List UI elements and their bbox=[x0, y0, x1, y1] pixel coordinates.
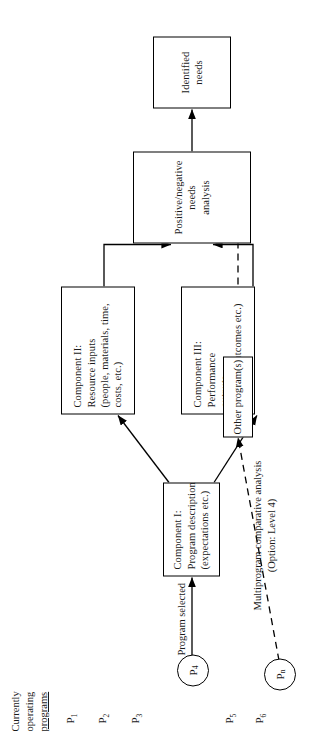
box-identified-needs[interactable]: Identified needs bbox=[153, 36, 231, 108]
component-ii-line-4: costs, etc.) bbox=[111, 293, 124, 407]
edge-label-multiprogram-analysis: Multiprogram comparative analysis (Optio… bbox=[251, 445, 278, 625]
program-node-p4[interactable]: P4 bbox=[177, 654, 209, 686]
p3-name: P bbox=[129, 717, 141, 723]
connector-lines bbox=[1, 0, 318, 737]
box-other-programs[interactable]: Other program(s) bbox=[223, 356, 253, 437]
p1-name: P bbox=[64, 717, 76, 723]
component-ii-line-1: Component II: bbox=[71, 293, 84, 407]
program-label-p5: P5 bbox=[223, 713, 235, 723]
component-ii-line-2: Resource inputs bbox=[85, 293, 98, 407]
needs-analysis-line-3: analysis bbox=[199, 180, 212, 215]
other-programs-line-1: Other program(s) bbox=[231, 359, 244, 434]
box-component-i[interactable]: Component I: Program description (expect… bbox=[163, 482, 220, 576]
component-i-line-3: (expectations etc.) bbox=[198, 489, 211, 569]
wire-component-ii-to-needs-analysis bbox=[104, 244, 171, 286]
needs-analysis-line-1: Positive/negative bbox=[172, 160, 185, 234]
program-label-p2: P2 bbox=[96, 713, 108, 723]
component-ii-line-3: (people, materials, time, bbox=[98, 293, 111, 407]
p6-sub: 6 bbox=[259, 713, 268, 717]
p4-sub: 4 bbox=[191, 665, 200, 669]
component-iii-line-1: Component III: bbox=[191, 293, 204, 407]
edge-label-program-selected: Program selected bbox=[175, 582, 189, 655]
figure-canvas: Currently operating programs P1 P2 P3 P4… bbox=[1, 0, 318, 737]
component-i-line-1: Component I: bbox=[171, 489, 184, 569]
multiprogram-line-1: Multiprogram comparative analysis bbox=[251, 445, 265, 625]
box-needs-analysis[interactable]: Positive/negative needs analysis bbox=[133, 151, 251, 243]
p5-name: P bbox=[223, 717, 235, 723]
p5-sub: 5 bbox=[229, 713, 238, 717]
identified-needs-line-1: Identified bbox=[179, 51, 192, 93]
p2-name: P bbox=[96, 717, 108, 723]
wire-component-i-to-component-ii bbox=[118, 415, 169, 482]
program-label-p1: P1 bbox=[64, 713, 76, 723]
p6-name: P bbox=[253, 717, 265, 723]
needs-analysis-line-2: needs bbox=[185, 185, 198, 209]
p4-name: P bbox=[187, 669, 199, 675]
pn-sub: n bbox=[278, 669, 287, 673]
box-component-ii[interactable]: Component II: Resource inputs (people, m… bbox=[61, 286, 135, 414]
component-iii-line-2: Performance bbox=[205, 293, 218, 407]
program-label-p6: P6 bbox=[253, 713, 265, 723]
program-label-p3: P3 bbox=[129, 713, 141, 723]
currently-operating-programs-label: Currently operating programs bbox=[9, 691, 51, 731]
wire-component-iii-to-needs-analysis bbox=[213, 244, 253, 286]
header-line-2: operating bbox=[23, 691, 37, 731]
p3-sub: 3 bbox=[135, 713, 144, 717]
identified-needs-line-2: needs bbox=[192, 60, 205, 84]
component-i-line-2: Program description bbox=[185, 489, 198, 569]
program-node-pn[interactable]: Pn bbox=[264, 658, 296, 690]
pn-name: P bbox=[274, 673, 286, 679]
header-line-3: programs bbox=[37, 691, 51, 731]
p2-sub: 2 bbox=[102, 713, 111, 717]
header-line-1: Currently bbox=[9, 691, 23, 731]
p1-sub: 1 bbox=[70, 713, 79, 717]
multiprogram-line-2: (Option: Level 4) bbox=[265, 445, 279, 625]
